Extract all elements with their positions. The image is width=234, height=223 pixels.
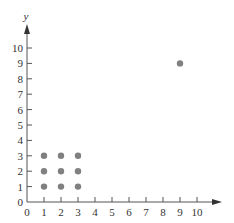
y-tick-label: 2 — [18, 165, 24, 177]
x-tick-label: 7 — [143, 206, 149, 218]
x-tick-label: 10 — [192, 206, 204, 218]
x-tick-label: 3 — [75, 206, 81, 218]
x-tick-label: 4 — [92, 206, 98, 218]
y-axis-arrow-icon — [24, 24, 30, 34]
y-tick-label: 9 — [18, 57, 24, 69]
data-point — [41, 153, 47, 159]
x-axis-arrow-icon — [212, 199, 222, 205]
x-tick-label: 1 — [41, 206, 47, 218]
data-point — [75, 153, 81, 159]
y-tick-label: 8 — [18, 73, 24, 85]
x-tick-label: 9 — [177, 206, 183, 218]
scatter-chart: y012345678910012345678910 — [0, 0, 234, 223]
y-axis-label: y — [23, 10, 29, 22]
data-point — [58, 153, 64, 159]
y-tick-label: 7 — [18, 88, 24, 100]
data-point — [177, 60, 183, 66]
y-tick-label: 3 — [18, 150, 24, 162]
data-point — [58, 168, 64, 174]
data-point — [58, 183, 64, 189]
x-tick-label: 8 — [160, 206, 166, 218]
data-point — [41, 168, 47, 174]
x-tick-label: 2 — [58, 206, 64, 218]
y-tick-label: 1 — [18, 181, 24, 193]
x-tick-label: 5 — [109, 206, 115, 218]
y-tick-label: 5 — [18, 119, 24, 131]
data-point — [41, 183, 47, 189]
data-point — [75, 168, 81, 174]
data-point — [75, 183, 81, 189]
y-tick-label: 6 — [18, 104, 24, 116]
x-tick-label: 0 — [24, 206, 30, 218]
y-tick-label: 10 — [12, 42, 24, 54]
x-tick-label: 6 — [126, 206, 132, 218]
data-points — [41, 60, 183, 190]
y-tick-label: 4 — [18, 134, 24, 146]
y-tick-label: 0 — [18, 196, 24, 208]
